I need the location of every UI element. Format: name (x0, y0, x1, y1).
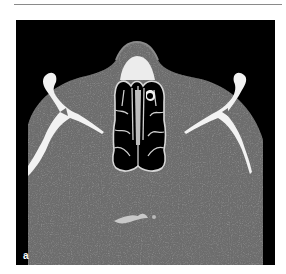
ct-scan-figure: a (16, 20, 275, 265)
panel-label: a (23, 251, 29, 261)
ct-scan-image (16, 20, 275, 265)
top-rule (14, 4, 282, 5)
